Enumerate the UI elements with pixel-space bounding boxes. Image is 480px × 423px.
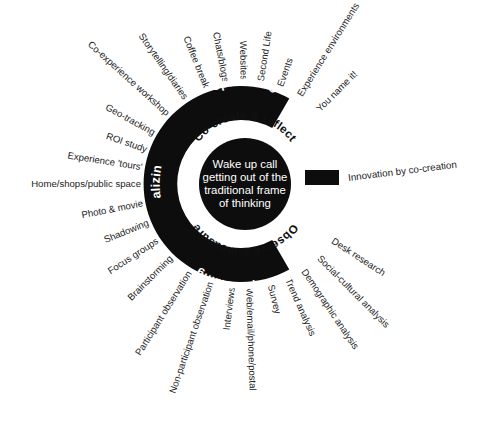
spoke-label: Chats/blogs — [211, 31, 232, 83]
spoke-label: Photo & movie — [80, 197, 143, 220]
core-text-line: Wake up call — [213, 158, 278, 170]
spoke-label: Experience 'tours' — [67, 150, 144, 173]
spoke-label: You name it! — [314, 68, 359, 113]
spoke-label: Web/email/phone/postal — [244, 288, 259, 391]
core-text-line: traditional frame — [204, 184, 286, 196]
diagram-canvas: Co-experience workshopStorytelling/diari… — [0, 0, 480, 423]
co-creation-wheel-diagram: Co-experience workshopStorytelling/diari… — [0, 0, 480, 423]
core-text-line: getting out of the — [203, 171, 288, 183]
spoke-label: Coffee break — [181, 34, 212, 89]
core-text-line: of thinking — [219, 197, 271, 209]
spoke-label: ROI study — [105, 130, 149, 154]
spoke-label: Home/shops/public space — [31, 178, 141, 189]
spoke-label: Second Life — [255, 30, 274, 82]
spoke-label: Interviews — [221, 286, 237, 330]
legend-swatch — [305, 170, 339, 185]
legend: Innovation by co-creation — [305, 170, 457, 185]
spoke-label: Shadowing — [102, 217, 150, 245]
